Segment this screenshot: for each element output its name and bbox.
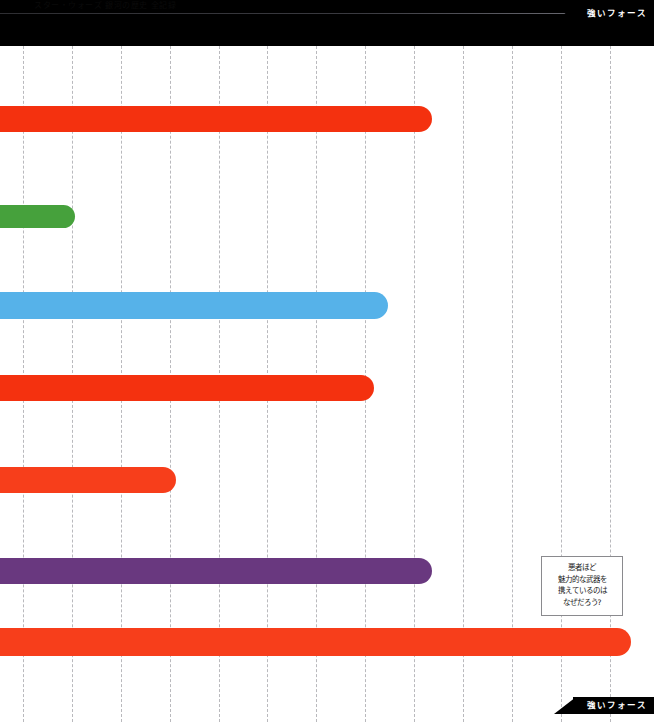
callout-line-0: 悪者ほど	[545, 562, 619, 574]
callout-line-3: なぜだろう?	[545, 597, 619, 609]
annotation-callout: 悪者ほど魅力的な武器を携えているのはなぜだろう?	[541, 556, 623, 616]
gridline-10	[512, 46, 513, 722]
gridline-8	[414, 46, 415, 722]
chart-bar-2[interactable]	[0, 205, 75, 228]
chart-bar-7[interactable]	[0, 628, 631, 656]
gridline-11	[561, 46, 562, 722]
chart-bar-3[interactable]	[0, 292, 388, 319]
chart-bar-1[interactable]	[0, 106, 432, 132]
callout-line-2: 携えているのは	[545, 585, 619, 597]
chart-bar-6[interactable]	[0, 558, 432, 584]
chart-bar-4[interactable]	[0, 375, 374, 401]
callout-line-1: 魅力的な武器を	[545, 574, 619, 586]
section-tab-top[interactable]: 強いフォース	[573, 5, 654, 22]
header-divider	[0, 13, 654, 14]
section-tab-bottom[interactable]: 強いフォース	[573, 697, 654, 714]
chart-plot-area	[0, 46, 654, 722]
page-title: スター・ウォーズ 銀河の歴史 全記録	[34, 0, 176, 11]
gridline-9	[463, 46, 464, 722]
chart-page: スター・ウォーズ 銀河の歴史 全記録 強いフォース 強いフォース 悪者ほど魅力的…	[0, 0, 654, 722]
gridline-12	[610, 46, 611, 722]
chart-bar-5[interactable]	[0, 467, 176, 493]
header-band: スター・ウォーズ 銀河の歴史 全記録	[0, 0, 654, 46]
